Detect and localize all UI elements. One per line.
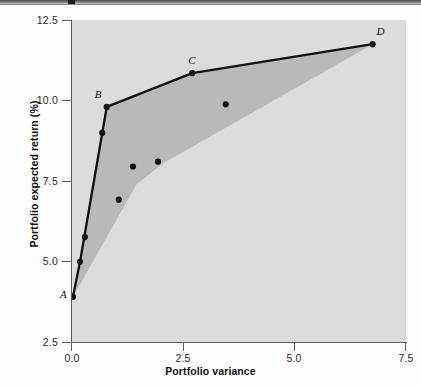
frontier-point-d — [370, 41, 376, 47]
scatter-point-1 — [116, 197, 122, 203]
x-tick-7.5 — [405, 342, 406, 351]
scan-artifact-rule — [0, 4, 421, 5]
plot-area — [72, 20, 406, 342]
frontier-point-2 — [99, 130, 105, 136]
scatter-point-0 — [82, 234, 88, 240]
x-axis-line — [71, 342, 407, 343]
plot-canvas — [72, 20, 406, 342]
point-label-a: A — [60, 288, 67, 300]
scatter-point-2 — [130, 163, 136, 169]
y-axis-title: Portfolio expected return (%) — [28, 54, 40, 294]
frontier-point-c — [189, 70, 195, 76]
x-tick-label-2.5: 2.5 — [158, 352, 208, 364]
point-label-c: C — [188, 54, 195, 66]
x-tick-label-5.0: 5.0 — [269, 352, 319, 364]
point-label-d: D — [377, 25, 385, 37]
chart-figure: 12.5 10.0 7.5 5.0 2.5 0.0 2.5 5.0 7.5 Po… — [0, 0, 421, 388]
frontier-point-b — [104, 104, 110, 110]
frontier-point-a — [72, 294, 76, 300]
x-tick-5.0 — [294, 342, 295, 351]
y-tick-label-12.5: 12.5 — [18, 14, 58, 26]
y-tick-5.0 — [62, 261, 72, 262]
x-tick-label-0.0: 0.0 — [47, 352, 97, 364]
shaded-feasible-region — [73, 44, 373, 297]
x-axis-title: Portfolio variance — [0, 365, 421, 377]
y-tick-12.5 — [62, 20, 72, 21]
y-tick-label-2.5: 2.5 — [18, 336, 58, 348]
x-tick-2.5 — [183, 342, 184, 351]
scatter-point-3 — [155, 159, 161, 165]
frontier-point-1 — [77, 259, 83, 265]
y-tick-10.0 — [62, 100, 72, 101]
x-tick-0.0 — [71, 342, 72, 351]
x-tick-label-7.5: 7.5 — [381, 352, 421, 364]
point-label-b: B — [95, 88, 102, 100]
y-tick-7.5 — [62, 181, 72, 182]
scatter-point-4 — [223, 101, 229, 107]
